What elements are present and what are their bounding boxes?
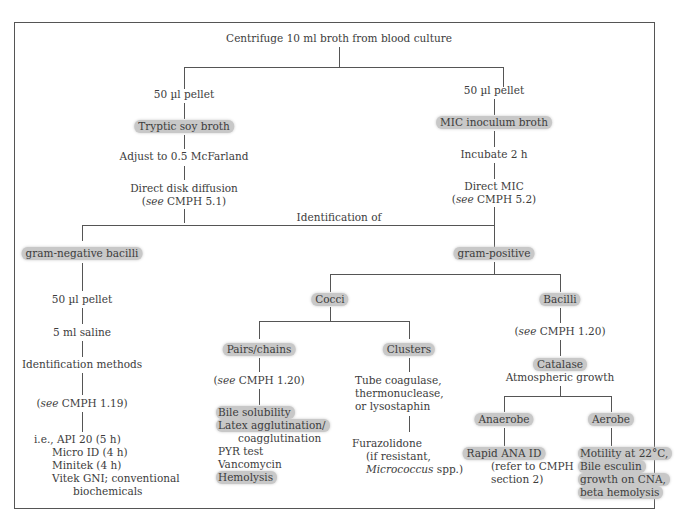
furazolidone-note-2: Micrococcus spp.) — [366, 463, 463, 476]
left-pellet: 50 µl pellet — [154, 88, 214, 101]
connector — [259, 358, 260, 372]
clusters-test-3: or lysostaphin — [355, 400, 430, 413]
direct-disk-diffusion: Direct disk diffusion — [130, 182, 238, 195]
connector — [494, 262, 495, 274]
anaerobe: Anaerobe — [474, 413, 533, 426]
connector — [330, 274, 331, 292]
furazolidone-note-1: (if resistant, — [366, 450, 431, 463]
clusters-test-1: Tube coagulase, — [355, 374, 442, 387]
connector — [184, 209, 185, 223]
bacilli: Bacilli — [539, 293, 580, 306]
connector — [611, 428, 612, 446]
rapid-ana-id: Rapid ANA ID — [463, 447, 546, 460]
clusters: Clusters — [383, 343, 435, 356]
connector — [409, 358, 410, 372]
connector — [504, 396, 505, 412]
connector — [494, 99, 495, 115]
connector — [82, 225, 495, 226]
connector — [184, 166, 185, 180]
incubate: Incubate 2 h — [460, 148, 527, 161]
connector — [494, 131, 495, 147]
direct-mic: Direct MIC — [464, 180, 523, 193]
connector — [259, 321, 410, 322]
connector — [259, 389, 260, 405]
connector — [494, 207, 495, 247]
connector — [560, 274, 561, 292]
connector — [330, 307, 331, 321]
gn-method-4: Vitek GNI; conventional — [52, 472, 180, 485]
catalase: Catalase — [533, 358, 587, 371]
mic-inoculum-broth: MIC inoculum broth — [436, 116, 552, 129]
connector — [339, 47, 340, 67]
right-reference: (see CMPH 5.2) — [452, 193, 536, 206]
aerobe-test-1: Motility at 22°C, — [578, 447, 672, 460]
aerobe-test-4: beta hemolysis — [578, 486, 663, 499]
connector — [184, 67, 504, 68]
right-pellet: 50 µl pellet — [464, 84, 524, 97]
connector — [330, 274, 561, 275]
connector — [409, 416, 410, 432]
pairs-reference: (see CMPH 1.20) — [213, 374, 304, 387]
gn-method-3: Minitek (4 h) — [52, 459, 121, 472]
connector — [184, 103, 185, 119]
gn-pellet: 50 µl pellet — [52, 293, 112, 306]
connector — [560, 386, 561, 396]
pairs-test-6: Hemolysis — [216, 471, 277, 484]
gram-positive: gram-positive — [453, 247, 534, 260]
aerobe-test-3: growth on CNA, — [578, 473, 670, 486]
pairs-chains: Pairs/chains — [223, 343, 296, 356]
gn-method-2: Micro ID (4 h) — [52, 446, 128, 459]
connector — [82, 341, 83, 357]
pairs-test-1: Bile solubility — [216, 406, 295, 419]
atmospheric-growth: Atmospheric growth — [506, 371, 615, 384]
connector — [82, 373, 83, 395]
identification-label: Identification of — [297, 211, 382, 224]
connector — [82, 263, 83, 291]
connector — [560, 340, 561, 356]
connector — [409, 321, 410, 339]
pairs-test-4: PYR test — [218, 445, 263, 458]
left-reference: (see CMPH 5.1) — [142, 195, 226, 208]
identification-methods: Identification methods — [22, 358, 142, 371]
connector — [82, 412, 83, 432]
connector — [259, 321, 260, 339]
anaerobe-note-2: section 2) — [491, 473, 543, 486]
pairs-test-3: coagglutination — [238, 432, 321, 445]
adjust-mcfarland: Adjust to 0.5 McFarland — [120, 150, 249, 163]
pairs-test-2: Latex agglutination/ — [216, 419, 330, 432]
cocci: Cocci — [311, 293, 348, 306]
gn-reference: (see CMPH 1.19) — [36, 397, 127, 410]
tryptic-soy-broth: Tryptic soy broth — [134, 120, 234, 133]
saline: 5 ml saline — [53, 326, 111, 339]
anaerobe-note-1: (refer to CMPH — [491, 460, 574, 473]
furazolidone: Furazolidone — [352, 437, 422, 450]
connector — [560, 308, 561, 323]
aerobe-test-2: Bile esculin — [578, 460, 646, 473]
bacilli-reference: (see CMPH 1.20) — [514, 325, 605, 338]
root-node: Centrifuge 10 ml broth from blood cultur… — [226, 32, 452, 45]
gn-method-5: biochemicals — [73, 485, 142, 498]
clusters-test-2: thermonuclease, — [355, 387, 444, 400]
connector — [184, 135, 185, 149]
connector — [82, 225, 83, 241]
gram-negative-bacilli: gram-negative bacilli — [22, 247, 143, 260]
pairs-test-5: Vancomycin — [218, 458, 282, 471]
connector — [611, 396, 612, 412]
connector — [504, 428, 505, 446]
connector — [82, 308, 83, 324]
connector — [504, 396, 612, 397]
connector — [184, 67, 185, 89]
gn-method-1: i.e., API 20 (5 h) — [34, 433, 121, 446]
aerobe: Aerobe — [588, 413, 634, 426]
connector — [494, 163, 495, 179]
